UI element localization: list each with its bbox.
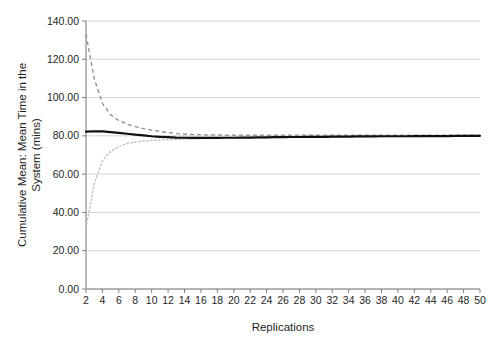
y-tick-label: 20.00 — [53, 244, 79, 256]
y-tick-label: 120.00 — [47, 53, 79, 65]
y-tick-label: 80.00 — [53, 129, 79, 141]
x-tick-label: 6 — [116, 294, 122, 306]
x-tick-label: 28 — [294, 294, 306, 306]
chart-canvas: 140.00120.00100.0080.0060.0040.0020.000.… — [0, 0, 494, 349]
x-tick-label: 18 — [211, 294, 223, 306]
y-tick-label: 140.00 — [47, 15, 79, 27]
x-tick-label: 12 — [162, 294, 174, 306]
x-tick-label: 8 — [132, 294, 138, 306]
x-tick-label: 30 — [310, 294, 322, 306]
x-tick-label: 24 — [261, 294, 273, 306]
x-tick-label: 22 — [244, 294, 256, 306]
x-tick-label: 32 — [326, 294, 338, 306]
x-tick-label: 46 — [441, 294, 453, 306]
x-tick-label: 50 — [474, 294, 486, 306]
x-tick-label: 14 — [179, 294, 191, 306]
x-tick-label: 16 — [195, 294, 207, 306]
y-tick-label: 40.00 — [53, 206, 79, 218]
y-tick-label: 60.00 — [53, 168, 79, 180]
y-tick-label: 100.00 — [47, 91, 79, 103]
x-tick-label: 2 — [83, 294, 89, 306]
x-tick-label: 26 — [277, 294, 289, 306]
x-tick-label: 34 — [343, 294, 355, 306]
x-tick-label: 42 — [408, 294, 420, 306]
x-tick-label: 44 — [425, 294, 437, 306]
x-axis-title: Replications — [252, 321, 315, 333]
y-axis-title-line1: Cumulative Mean: Mean Time in the — [16, 63, 28, 247]
x-tick-label: 40 — [392, 294, 404, 306]
x-tick-label: 36 — [359, 294, 371, 306]
x-tick-label: 20 — [228, 294, 240, 306]
x-tick-label: 4 — [99, 294, 105, 306]
y-axis-title-line2: System (mins) — [30, 118, 42, 192]
cumulative-mean-chart: 140.00120.00100.0080.0060.0040.0020.000.… — [0, 0, 494, 349]
x-tick-label: 48 — [458, 294, 470, 306]
x-tick-label: 10 — [146, 294, 158, 306]
y-tick-label: 0.00 — [59, 283, 80, 295]
x-tick-label: 38 — [376, 294, 388, 306]
